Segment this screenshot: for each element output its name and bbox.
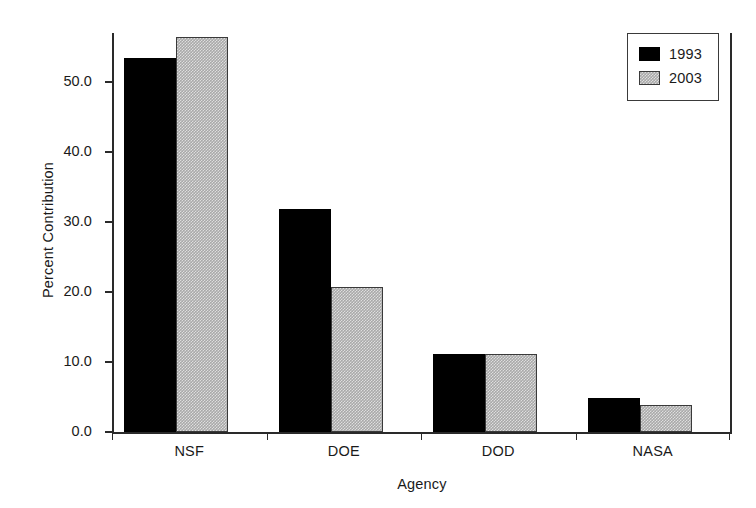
bar-nsf-2003 <box>176 37 228 432</box>
bar-doe-1993 <box>279 209 331 432</box>
x-tick-mark <box>267 432 268 440</box>
right-spine-line <box>730 33 732 433</box>
y-tick-label: 0.0 <box>32 424 92 439</box>
bar-nasa-1993 <box>588 398 640 432</box>
y-tick-mark <box>105 221 113 222</box>
x-category-label-nsf: NSF <box>112 443 267 459</box>
legend-label-1993: 1993 <box>669 46 702 62</box>
y-tick-mark <box>105 151 113 152</box>
y-tick-mark <box>105 81 113 82</box>
x-category-label-nasa: NASA <box>576 443 731 459</box>
legend-label-2003: 2003 <box>669 70 702 86</box>
y-axis-line <box>112 33 114 433</box>
x-tick-mark <box>729 432 730 440</box>
y-tick-label: 10.0 <box>32 354 92 369</box>
y-axis-title: Percent Contribution <box>40 115 56 345</box>
x-category-label-doe: DOE <box>267 443 422 459</box>
y-tick-label: 50.0 <box>32 74 92 89</box>
bar-dod-2003 <box>485 354 537 432</box>
legend-swatch-1993 <box>639 47 660 61</box>
bar-doe-2003 <box>331 287 383 432</box>
bar-nsf-1993 <box>124 58 176 432</box>
legend-swatch-2003 <box>639 71 660 85</box>
x-axis-title: Agency <box>112 476 732 492</box>
bar-nasa-2003 <box>640 405 692 432</box>
y-tick-mark <box>105 291 113 292</box>
x-tick-mark <box>421 432 422 440</box>
bar-dod-1993 <box>433 354 485 432</box>
x-category-label-dod: DOD <box>421 443 576 459</box>
x-tick-mark <box>112 432 113 440</box>
x-tick-mark <box>576 432 577 440</box>
bar-chart: 0.010.020.030.040.050.0 NSFDOEDODNASA Pe… <box>0 0 756 508</box>
legend-item: 2003 <box>639 66 718 90</box>
legend: 1993 2003 <box>627 33 719 101</box>
legend-item: 1993 <box>639 42 718 66</box>
y-tick-mark <box>105 361 113 362</box>
